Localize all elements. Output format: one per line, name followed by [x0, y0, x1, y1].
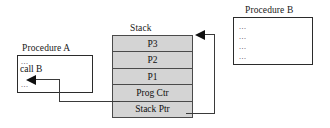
stack-box: P3 P2 P1 Prog Ctr Stack Ptr — [112, 35, 193, 118]
procedure-b-line-2: ... — [239, 42, 247, 51]
procedure-b-title: Procedure B — [245, 5, 293, 15]
stack-cell-p2: P2 — [113, 52, 192, 68]
procedure-b-line-0: ... — [239, 22, 247, 31]
stack-ptr-arrowhead-icon — [195, 30, 205, 40]
stack-ptr-horizontal-line — [193, 113, 215, 114]
prog-ctr-horizontal-line — [59, 101, 113, 102]
stack-cell-stack-ptr: Stack Ptr — [113, 102, 192, 117]
procedure-b-line-3: ... — [239, 52, 247, 61]
procedure-a-line-1: call B — [20, 64, 42, 74]
stack-ptr-vertical-line — [214, 34, 215, 114]
stack-cell-label: P3 — [147, 39, 157, 49]
stack-cell-p1: P1 — [113, 69, 192, 85]
stack-cell-label: P2 — [147, 55, 157, 65]
diagram-canvas: Procedure A ... call B ... Stack P3 P2 P… — [0, 0, 330, 128]
stack-cell-label: Prog Ctr — [136, 88, 168, 98]
stack-ptr-arrow-stem — [205, 34, 215, 35]
prog-ctr-nub — [113, 101, 120, 102]
stack-cell-label: P1 — [147, 72, 157, 82]
stack-cell-p3: P3 — [113, 36, 192, 52]
procedure-a-title: Procedure A — [22, 43, 70, 53]
stack-cell-label: Stack Ptr — [135, 104, 170, 114]
procedure-b-line-1: ... — [239, 32, 247, 41]
prog-ctr-arrowhead-icon — [26, 75, 36, 85]
stack-ptr-nub — [186, 113, 193, 114]
prog-ctr-vertical-line — [59, 79, 60, 102]
prog-ctr-arrow-stem — [36, 79, 60, 80]
stack-title: Stack — [130, 23, 152, 33]
stack-cell-prog-ctr: Prog Ctr — [113, 85, 192, 101]
